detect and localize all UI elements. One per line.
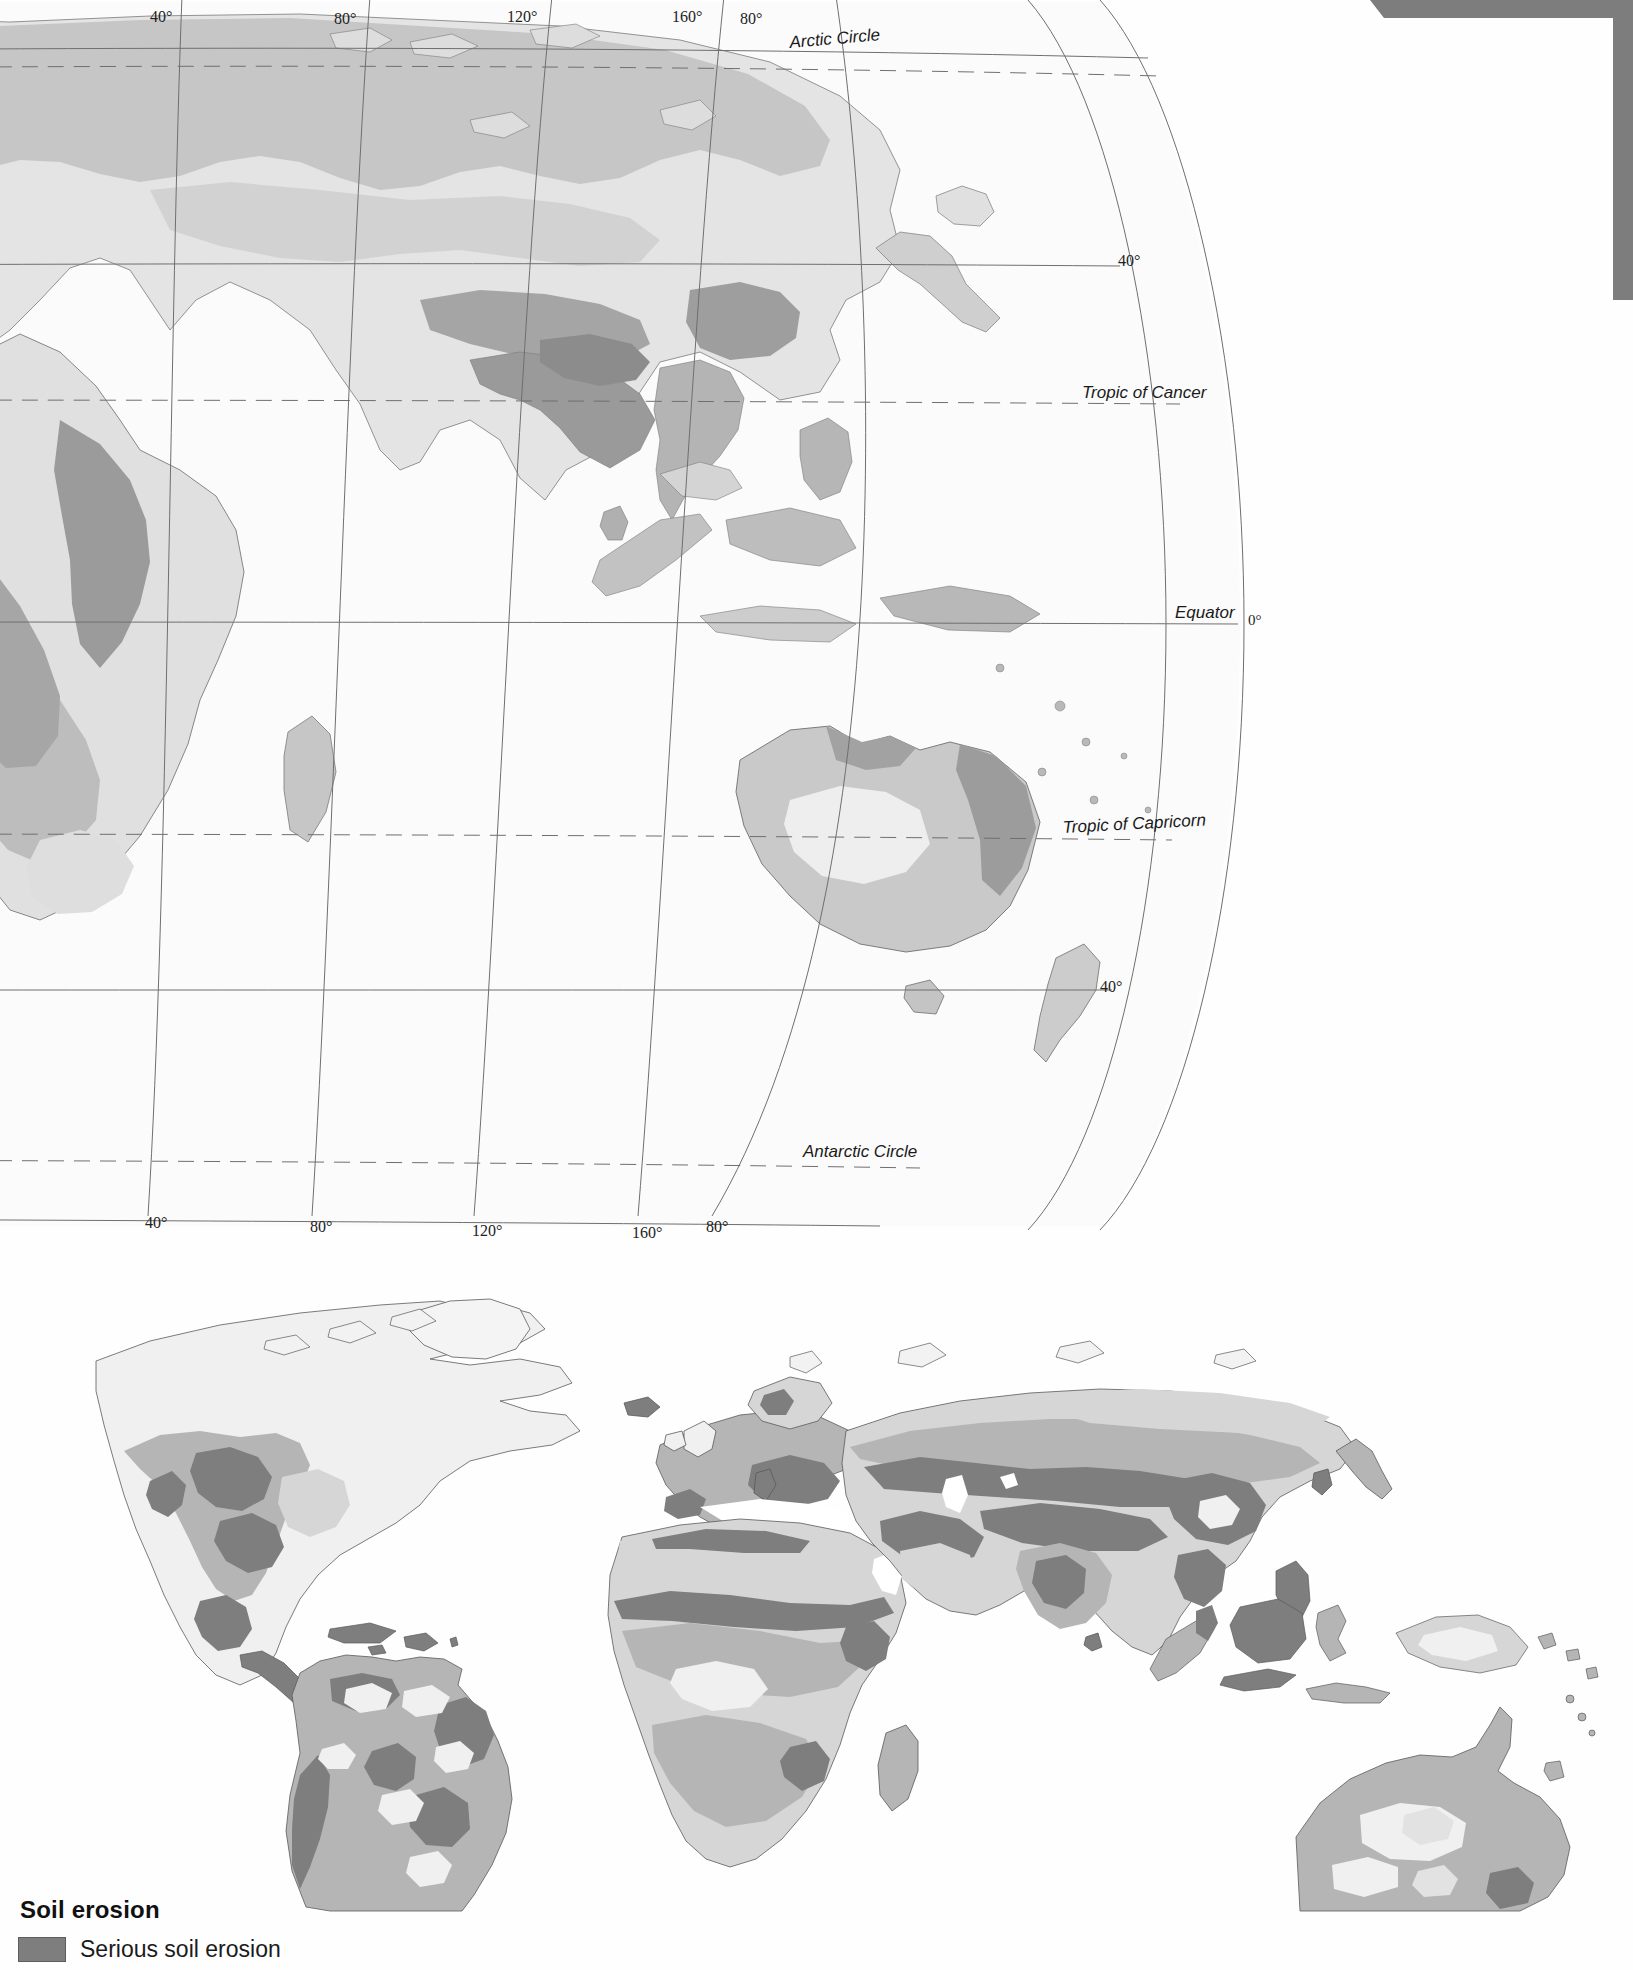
japan — [1336, 1439, 1392, 1499]
legend-title: Soil erosion — [20, 1896, 618, 1924]
lesser-sunda-islands — [1306, 1683, 1390, 1703]
corner-decoration-shape — [1370, 0, 1633, 300]
legend-item-serious-soil-erosion: Serious soil erosion — [18, 1936, 618, 1963]
label-lon-160-top: 160° — [672, 8, 702, 25]
australia — [1296, 1707, 1570, 1911]
label-lon-160-bottom: 160° — [632, 1224, 662, 1241]
cuba — [328, 1623, 396, 1643]
sri-lanka — [1084, 1633, 1102, 1651]
severnaya-zemlya — [1056, 1341, 1104, 1363]
madagascar — [878, 1725, 918, 1811]
legend-label-serious-soil-erosion: Serious soil erosion — [80, 1936, 281, 1963]
label-lon-80-bottom: 80° — [310, 1218, 332, 1235]
map-legend: Soil erosion Serious soil erosion — [18, 1896, 618, 1970]
label-lon-80-top-east: 80° — [740, 10, 762, 27]
novaya-zemlya — [898, 1343, 946, 1367]
korea — [1312, 1469, 1332, 1495]
lower-world-map-soil-erosion — [0, 1255, 1633, 1915]
svalbard — [790, 1351, 822, 1373]
atlas-page: Arctic Circle 40° Tropic of Cancer Equat… — [0, 0, 1633, 1970]
north-america — [96, 1299, 580, 1685]
label-lat-0: 0° — [1248, 612, 1262, 628]
label-lat-40-south: 40° — [1100, 978, 1122, 995]
label-lon-40-top: 40° — [150, 8, 172, 25]
europe — [624, 1377, 864, 1531]
africa — [608, 1519, 918, 1867]
label-lat-40-north: 40° — [1118, 252, 1140, 269]
label-tropic-of-cancer: Tropic of Cancer — [1082, 383, 1208, 402]
label-equator: Equator — [1175, 603, 1236, 622]
page-corner-decoration — [1370, 0, 1633, 300]
upper-world-map: Arctic Circle 40° Tropic of Cancer Equat… — [0, 0, 1290, 1248]
asia — [842, 1389, 1392, 1655]
legend-swatch-serious-soil-erosion — [18, 1937, 66, 1962]
lesser-antilles — [450, 1637, 458, 1647]
iceland — [624, 1397, 660, 1417]
borneo — [1230, 1599, 1306, 1663]
label-lon-120-bottom: 120° — [472, 1222, 502, 1239]
jamaica — [368, 1645, 386, 1655]
new-siberian-islands — [1214, 1349, 1256, 1369]
label-lon-120-top: 120° — [507, 8, 537, 25]
java — [1220, 1669, 1296, 1691]
label-lon-40-bottom: 40° — [145, 1214, 167, 1231]
label-antarctic-circle: Antarctic Circle — [802, 1142, 917, 1161]
pacific-small-islands — [1538, 1633, 1598, 1781]
label-lon-80-top: 80° — [334, 10, 356, 27]
south-america — [286, 1655, 512, 1911]
hispaniola — [404, 1633, 438, 1651]
label-lon-80-bottom-east: 80° — [706, 1218, 728, 1235]
sulawesi — [1316, 1605, 1346, 1661]
